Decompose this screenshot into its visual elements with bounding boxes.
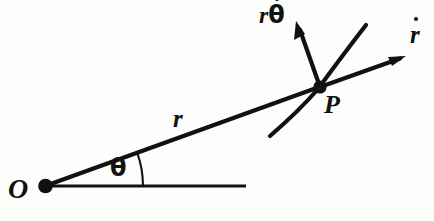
rthetadot-arrow xyxy=(294,21,320,87)
overdot-accent-icon xyxy=(414,17,418,21)
rdot-arrow-head xyxy=(388,56,406,66)
polar-coordinates-diagram: O P r θ r rθ xyxy=(0,0,434,221)
thetadot-base-letter: θ xyxy=(268,1,285,29)
rthetadot-arrow-shaft xyxy=(300,30,320,87)
radius-label: r xyxy=(173,106,183,131)
theta-arc xyxy=(137,153,143,187)
diagram-canvas xyxy=(0,0,434,221)
point-p-label: P xyxy=(324,92,340,118)
rdot-variable: r xyxy=(410,22,420,47)
rthetadot-r-letter: r xyxy=(259,2,268,28)
radius-vector-line xyxy=(45,86,322,186)
angle-theta-label: θ xyxy=(110,156,127,180)
origin-label: O xyxy=(8,175,28,203)
rdot-base-letter: r xyxy=(410,21,420,48)
rthetadot-label: rθ xyxy=(259,3,285,27)
rdot-label: r xyxy=(410,22,420,47)
origin-point-marker xyxy=(38,179,53,194)
thetadot-variable: θ xyxy=(268,3,285,27)
